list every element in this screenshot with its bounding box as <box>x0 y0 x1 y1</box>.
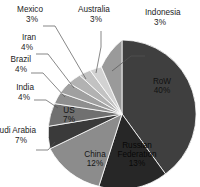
slice-label-australia-name: Australia <box>78 5 110 14</box>
slice-label-russian-federation-name1: Russian <box>122 141 152 150</box>
slice-label-china-pct: 12% <box>87 159 103 168</box>
slice-label-china-name: China <box>84 150 106 159</box>
slice-label-row-pct: 40% <box>154 86 170 95</box>
slice-label-brazil-name: Brazil <box>11 55 32 64</box>
slice-label-indonesia-pct: 3% <box>154 18 166 27</box>
slice-label-us-pct: 7% <box>63 115 75 124</box>
pie-chart-svg: RoW 40% Russian Federation 13% China 12%… <box>0 0 200 187</box>
slice-label-row-name: RoW <box>153 77 171 86</box>
slice-label-saudi-arabia-name: Saudi Arabia <box>0 126 36 135</box>
slice-label-russian-federation-pct: 13% <box>129 159 145 168</box>
slice-label-india-name: India <box>16 83 34 92</box>
pie-chart-container: RoW 40% Russian Federation 13% China 12%… <box>0 0 200 187</box>
slice-label-mexico-pct: 3% <box>26 15 38 24</box>
slice-label-australia-pct: 3% <box>90 15 102 24</box>
slice-label-us-name: US <box>63 106 75 115</box>
slice-label-mexico-name: Mexico <box>17 5 43 14</box>
slice-label-russian-federation-name2: Federation <box>117 150 157 159</box>
slice-label-brazil-pct: 4% <box>15 65 27 74</box>
slice-label-indonesia-name: Indonesia <box>145 8 181 17</box>
slice-label-india-pct: 4% <box>18 93 30 102</box>
slice-label-saudi-arabia-pct: 7% <box>15 136 27 145</box>
slice-label-iran-name: Iran <box>22 33 37 42</box>
slice-label-iran-pct: 4% <box>21 43 33 52</box>
